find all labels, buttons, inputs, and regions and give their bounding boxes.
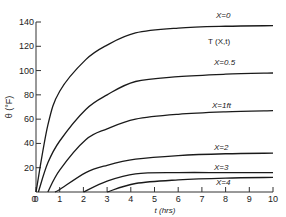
y-tick-label: 140 (19, 17, 34, 27)
y-tick-label: 120 (19, 41, 34, 51)
y-axis-label: θ (°F) (4, 96, 14, 119)
x-tick-label: 6 (176, 194, 181, 204)
x-tick-label: 1 (57, 194, 62, 204)
y-tick-label: 80 (24, 90, 34, 100)
x-tick-label: 2 (81, 194, 86, 204)
origin-label: 0 (31, 194, 36, 204)
x-tick-label: 8 (223, 194, 228, 204)
series-label: X=3 (213, 163, 229, 172)
chart: 012345678910204060801001201400 t (hrs)θ … (0, 0, 286, 217)
axes: 012345678910204060801001201400 (19, 17, 278, 204)
y-tick-label: 60 (24, 114, 34, 124)
series-curve (36, 26, 273, 192)
series-label: X=0.5 (213, 58, 236, 67)
curves (36, 26, 273, 192)
y-tick-label: 20 (24, 163, 34, 173)
y-tick-label: 100 (19, 66, 34, 76)
series-curve (107, 177, 273, 192)
series-curve (48, 111, 273, 192)
series-label: X=4 (215, 178, 231, 187)
series-label: X=1ft (211, 101, 232, 110)
x-tick-label: 7 (199, 194, 204, 204)
x-axis-label: t (hrs) (155, 206, 176, 215)
x-tick-label: 5 (152, 194, 157, 204)
series-label: X=2 (213, 143, 229, 152)
series-label: X=0 (215, 11, 231, 20)
x-tick-label: 4 (128, 194, 133, 204)
x-tick-label: 10 (268, 194, 278, 204)
annotation-label: T (X,t) (208, 37, 230, 46)
x-tick-label: 3 (105, 194, 110, 204)
x-tick-label: 9 (247, 194, 252, 204)
series-curve (38, 73, 273, 192)
y-tick-label: 40 (24, 138, 34, 148)
